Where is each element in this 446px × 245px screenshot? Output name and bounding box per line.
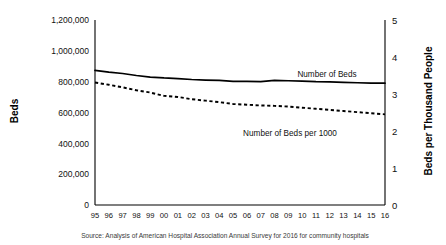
y-tick-right: 0 — [392, 200, 397, 211]
x-tick: 16 — [381, 211, 389, 220]
x-tick: 15 — [367, 211, 375, 220]
chart-figure: 0200,000400,000600,000800,0001,000,0001,… — [0, 0, 446, 245]
y-tick-right: 3 — [392, 89, 397, 100]
y-tick-left: 200,000 — [58, 169, 89, 179]
y-tick-right: 2 — [392, 126, 397, 137]
x-tick: 02 — [187, 211, 195, 220]
x-tick: 04 — [215, 211, 223, 220]
x-tick: 14 — [353, 211, 361, 220]
x-tick: 96 — [105, 211, 113, 220]
line-chart: 0200,000400,000600,000800,0001,000,0001,… — [0, 0, 446, 245]
y-axis-left-title: Beds — [9, 98, 20, 123]
x-tick: 97 — [118, 211, 126, 220]
x-tick: 09 — [284, 211, 292, 220]
x-tick: 11 — [312, 211, 320, 220]
y-tick-right: 4 — [392, 52, 397, 63]
x-tick: 00 — [160, 211, 168, 220]
x-tick: 06 — [243, 211, 251, 220]
x-tick: 08 — [270, 211, 278, 220]
y-tick-right: 1 — [392, 163, 397, 174]
source-note: Source: Analysis of American Hospital As… — [81, 232, 369, 240]
series-annotation-number-of-beds: Number of Beds — [297, 70, 356, 79]
x-tick: 98 — [132, 211, 140, 220]
y-axis-left-tick-labels: 0200,000400,000600,000800,0001,000,0001,… — [51, 15, 89, 210]
y-axis-right-title: Beds per Thousand People — [423, 46, 434, 175]
y-tick-left: 0 — [84, 200, 89, 210]
series-annotation-beds-per-1000: Number of Beds per 1000 — [243, 129, 337, 138]
y-tick-left: 800,000 — [58, 77, 89, 87]
y-tick-left: 400,000 — [58, 139, 89, 149]
y-axis-right-tick-labels: 012345 — [392, 15, 397, 211]
y-tick-left: 1,000,000 — [51, 46, 89, 56]
x-tick: 05 — [229, 211, 237, 220]
x-tick: 03 — [201, 211, 209, 220]
y-tick-left: 600,000 — [58, 108, 89, 118]
y-tick-left: 1,200,000 — [51, 15, 89, 25]
x-tick: 99 — [146, 211, 154, 220]
x-axis-tick-labels: 9596979899000102030405060708091011121314… — [91, 211, 389, 220]
series-line-number-of-beds-per-1000 — [95, 83, 385, 115]
x-tick: 10 — [298, 211, 306, 220]
x-tick: 07 — [256, 211, 264, 220]
x-tick: 01 — [174, 211, 182, 220]
y-tick-right: 5 — [392, 15, 397, 26]
x-tick: 13 — [339, 211, 347, 220]
x-tick: 12 — [326, 211, 334, 220]
x-tick: 95 — [91, 211, 99, 220]
